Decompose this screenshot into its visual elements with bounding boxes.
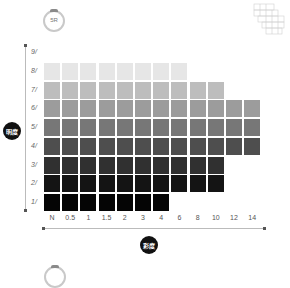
color-chip (44, 138, 60, 155)
color-chip (44, 100, 60, 117)
color-chip (62, 138, 78, 155)
color-chip (208, 119, 224, 136)
chroma-tick-label: 3 (134, 214, 152, 221)
color-chip (117, 138, 133, 155)
value-axis-badge: 明度 (3, 122, 21, 140)
chroma-tick-label: 12 (225, 214, 243, 221)
color-chip (171, 138, 187, 155)
color-chip (44, 157, 60, 174)
color-chip (208, 175, 224, 192)
color-chip (117, 175, 133, 192)
value-tick-label: 2/ (31, 179, 43, 186)
color-chip (153, 138, 169, 155)
color-chip (153, 157, 169, 174)
color-chip (190, 119, 206, 136)
color-chip (44, 175, 60, 192)
value-tick-label: 8/ (31, 67, 43, 74)
color-chip (171, 175, 187, 192)
color-chip (117, 82, 133, 99)
color-chip (117, 194, 133, 211)
value-axis (25, 46, 26, 210)
color-chip (80, 100, 96, 117)
color-chip (208, 82, 224, 99)
color-chip (153, 175, 169, 192)
color-chip (135, 82, 151, 99)
value-tick-label: 7/ (31, 86, 43, 93)
chroma-tick-label: 14 (243, 214, 261, 221)
color-chip (62, 194, 78, 211)
color-chip (62, 100, 78, 117)
color-chip (135, 157, 151, 174)
chroma-tick-label: 0.5 (61, 214, 79, 221)
color-chip (117, 119, 133, 136)
value-tick-label: 3/ (31, 161, 43, 168)
color-chip (135, 119, 151, 136)
color-chip (80, 82, 96, 99)
value-tick-label: 9/ (31, 48, 43, 55)
color-chip (190, 175, 206, 192)
chroma-tick-label: 8 (189, 214, 207, 221)
color-chip (153, 82, 169, 99)
color-chip (171, 119, 187, 136)
color-chip (208, 157, 224, 174)
chroma-axis (44, 228, 264, 229)
color-chip (171, 100, 187, 117)
color-chip (190, 100, 206, 117)
color-chip (226, 138, 242, 155)
color-chip (171, 157, 187, 174)
color-chip (208, 100, 224, 117)
color-chip (99, 138, 115, 155)
chroma-tick-label: 6 (170, 214, 188, 221)
color-chip (99, 194, 115, 211)
color-chip (153, 63, 169, 80)
color-chip (62, 63, 78, 80)
color-chip (135, 100, 151, 117)
color-chip (80, 157, 96, 174)
color-chip (153, 119, 169, 136)
color-chip (80, 138, 96, 155)
chroma-tick-label: 1.5 (98, 214, 116, 221)
value-tick-label: 5/ (31, 123, 43, 130)
color-chip (153, 194, 169, 211)
color-chip (135, 138, 151, 155)
hue-indicator-bottom (44, 266, 66, 288)
color-chip (44, 194, 60, 211)
chroma-tick-label: N (43, 214, 61, 221)
color-chip (62, 175, 78, 192)
chroma-tick-label: 10 (207, 214, 225, 221)
color-chip (226, 119, 242, 136)
color-chip (244, 100, 260, 117)
color-chip (80, 63, 96, 80)
color-chip (62, 82, 78, 99)
color-chip (171, 63, 187, 80)
chroma-tick-label: 1 (79, 214, 97, 221)
color-chip (44, 63, 60, 80)
value-tick-label: 1/ (31, 198, 43, 205)
color-chip (99, 157, 115, 174)
color-chip (190, 82, 206, 99)
color-chip (244, 119, 260, 136)
color-chip (244, 138, 260, 155)
thumbnail-icon (252, 2, 288, 42)
color-chip (62, 119, 78, 136)
color-chip (99, 119, 115, 136)
color-chip (44, 119, 60, 136)
color-chip (208, 138, 224, 155)
color-chip (135, 63, 151, 80)
color-chip (117, 157, 133, 174)
color-chip (99, 63, 115, 80)
hue-label: 5R (45, 17, 63, 23)
chroma-axis-badge: 彩度 (140, 236, 158, 254)
color-chip (117, 100, 133, 117)
color-chip (171, 82, 187, 99)
color-chip (62, 157, 78, 174)
color-chip (99, 100, 115, 117)
color-chip (135, 194, 151, 211)
color-chip (44, 82, 60, 99)
color-chip (190, 157, 206, 174)
color-chip (190, 138, 206, 155)
color-chip (153, 100, 169, 117)
value-tick-label: 4/ (31, 142, 43, 149)
hue-indicator-top: 5R (43, 10, 65, 32)
color-chip (99, 82, 115, 99)
